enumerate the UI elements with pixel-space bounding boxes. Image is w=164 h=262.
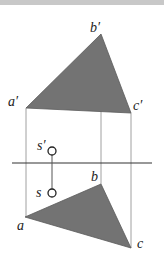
label-b-prime: b′ xyxy=(90,20,101,35)
label-a: a xyxy=(17,218,24,233)
label-s: s xyxy=(36,185,42,200)
point-s-icon xyxy=(48,189,56,197)
label-c: c xyxy=(137,236,144,251)
projection-diagram: b′ a′ c′ s′ b s a c xyxy=(0,0,164,262)
front-view-triangle xyxy=(26,34,131,113)
label-a-prime: a′ xyxy=(8,94,19,109)
point-s-prime-icon xyxy=(48,147,56,155)
label-s-prime: s′ xyxy=(37,138,46,153)
label-c-prime: c′ xyxy=(133,98,143,113)
label-b: b xyxy=(91,169,98,184)
